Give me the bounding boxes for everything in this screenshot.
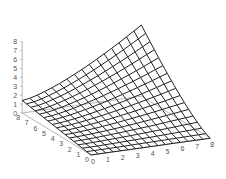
- mesh-line-x: [89, 64, 158, 145]
- z-tick-label: 2: [13, 92, 17, 99]
- mesh-line-x: [97, 59, 166, 144]
- z-tick-label: 6: [13, 56, 17, 63]
- mesh-line-y: [35, 50, 154, 111]
- x-tick-label: 4: [151, 150, 155, 157]
- y-tick-label: 5: [42, 130, 46, 137]
- y-tick-label: 7: [25, 119, 29, 126]
- mesh-line-y: [27, 33, 146, 104]
- x-tick-label: 8: [210, 141, 214, 148]
- y-tick-label: 3: [59, 140, 63, 147]
- mesh-line-x: [141, 25, 210, 138]
- y-tick-label: 6: [33, 125, 37, 132]
- mesh-line-x: [45, 92, 114, 152]
- z-tick-label: 8: [13, 38, 17, 45]
- z-tick-label: 7: [13, 47, 17, 54]
- x-tick-label: 0: [91, 158, 95, 165]
- x-tick-label: 2: [121, 154, 125, 161]
- mesh-line-y: [44, 66, 163, 118]
- z-tick-label: 1: [13, 101, 17, 108]
- mesh-line-y: [22, 25, 141, 101]
- z-tick-label: 4: [13, 74, 17, 81]
- y-tick-label: 2: [68, 146, 72, 153]
- y-tick-label: 1: [76, 151, 80, 158]
- mesh-line-x: [104, 54, 173, 144]
- y-tick-label: 4: [51, 135, 55, 142]
- z-tick-label: 5: [13, 65, 17, 72]
- x-tick-label: 1: [106, 156, 110, 163]
- mesh-line-x: [82, 70, 151, 147]
- x-tick-label: 6: [180, 145, 184, 152]
- x-tick-label: 3: [136, 152, 140, 159]
- x-tick-label: 5: [166, 148, 170, 155]
- z-tick-label: 3: [13, 83, 17, 90]
- y-tick-label: 0: [85, 156, 89, 163]
- x-tick-label: 7: [195, 143, 199, 150]
- surface-plot: 012345678012345678012345678: [0, 0, 226, 179]
- y-tick-label: 8: [16, 114, 20, 121]
